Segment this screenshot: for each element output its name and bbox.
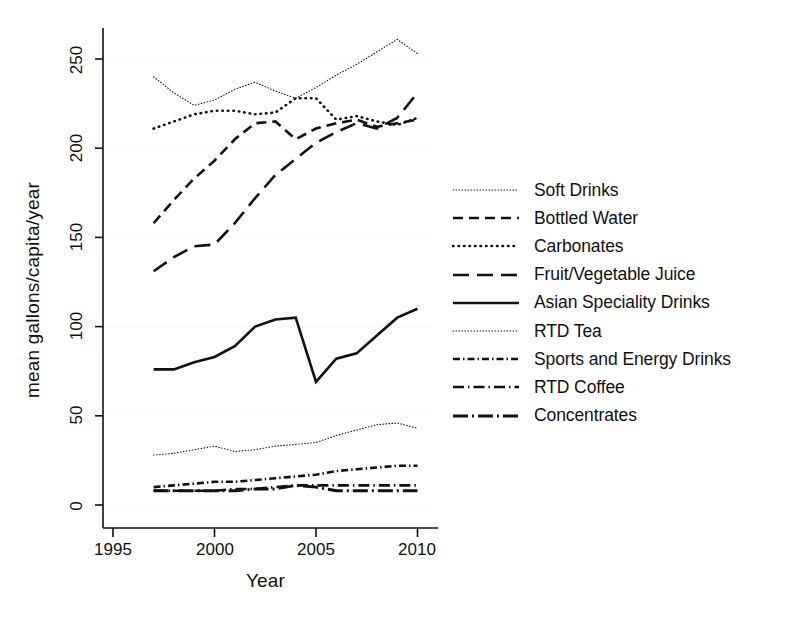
x-tick-label-2005: 2005	[292, 540, 340, 560]
y-tick-label-0: 0	[67, 493, 87, 519]
y-tick-label-150: 150	[67, 216, 87, 258]
legend-line-sample-icon	[452, 324, 520, 338]
x-tick-label-2010: 2010	[393, 540, 441, 560]
series-line-bottled-water	[154, 120, 418, 223]
grid-lines	[106, 59, 432, 505]
legend-item-label: Concentrates	[534, 405, 637, 426]
legend-item-soft-drinks[interactable]: Soft Drinks	[452, 176, 797, 204]
legend-item-label: RTD Tea	[534, 321, 602, 342]
axis-lines	[95, 28, 438, 537]
legend-item-asian-speciality-drinks[interactable]: Asian Speciality Drinks	[452, 289, 797, 317]
series-line-carbonates	[154, 98, 418, 128]
series-line-fruit-vegetable-juice	[154, 93, 418, 271]
legend-item-label: Soft Drinks	[534, 180, 618, 201]
legend-item-label: Asian Speciality Drinks	[534, 292, 710, 313]
legend-line-sample-icon	[452, 380, 520, 394]
chart-figure: mean gallons/capita/year Year 250 200 15…	[0, 0, 805, 619]
legend-item-bottled-water[interactable]: Bottled Water	[452, 204, 797, 232]
legend-line-sample-icon	[452, 239, 520, 253]
legend-line-sample-icon	[452, 183, 520, 197]
y-tick-label-100: 100	[67, 305, 87, 347]
x-axis-title: Year	[113, 570, 418, 592]
series-line-concentrates	[154, 485, 418, 490]
y-tick-label-250: 250	[67, 39, 87, 81]
y-tick-label-200: 200	[67, 127, 87, 169]
series-line-soft-drinks	[154, 39, 418, 105]
x-tick-label-2000: 2000	[191, 540, 239, 560]
legend-item-label: Fruit/Vegetable Juice	[534, 264, 695, 285]
legend-item-carbonates[interactable]: Carbonates	[452, 232, 797, 260]
legend-item-rtd-tea[interactable]: RTD Tea	[452, 317, 797, 345]
chart-legend: Soft DrinksBottled WaterCarbonatesFruit/…	[452, 176, 797, 430]
legend-line-sample-icon	[452, 409, 520, 423]
legend-item-label: Bottled Water	[534, 208, 638, 229]
series-line-asian-speciality-drinks	[154, 309, 418, 382]
y-axis-title: mean gallons/capita/year	[22, 110, 44, 470]
legend-item-sports-and-energy-drinks[interactable]: Sports and Energy Drinks	[452, 345, 797, 373]
legend-item-label: RTD Coffee	[534, 377, 625, 398]
legend-item-label: Carbonates	[534, 236, 623, 257]
series-line-sports-and-energy-drinks	[154, 466, 418, 487]
legend-line-sample-icon	[452, 296, 520, 310]
legend-line-sample-icon	[452, 352, 520, 366]
legend-item-rtd-coffee[interactable]: RTD Coffee	[452, 373, 797, 401]
series-line-rtd-tea	[154, 423, 418, 455]
legend-line-sample-icon	[452, 268, 520, 282]
legend-line-sample-icon	[452, 211, 520, 225]
legend-item-concentrates[interactable]: Concentrates	[452, 402, 797, 430]
legend-item-fruit-vegetable-juice[interactable]: Fruit/Vegetable Juice	[452, 261, 797, 289]
legend-item-label: Sports and Energy Drinks	[534, 349, 731, 370]
x-tick-label-1995: 1995	[89, 540, 137, 560]
y-tick-label-50: 50	[67, 398, 87, 432]
data-series-group	[154, 39, 418, 490]
